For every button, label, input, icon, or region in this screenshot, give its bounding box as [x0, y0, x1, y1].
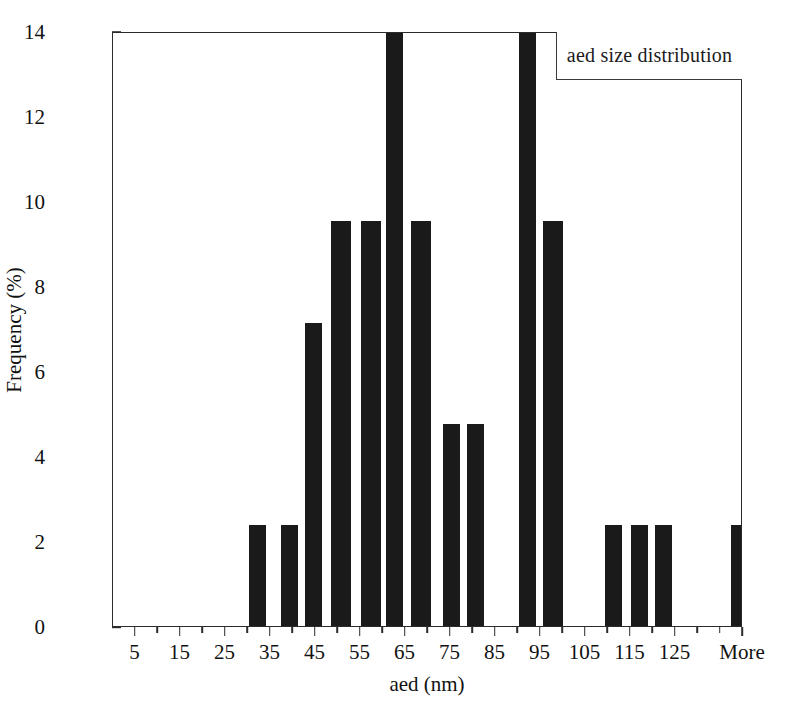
- x-tick-label: 115: [614, 640, 645, 665]
- x-tick-mark: [224, 627, 226, 636]
- x-tick-mark-minor: [719, 627, 721, 633]
- x-tick-mark: [314, 627, 316, 636]
- x-tick-mark: [269, 627, 271, 636]
- histogram-bar: [361, 221, 381, 626]
- x-tick-mark-minor: [246, 627, 248, 633]
- x-tick-mark-minor: [696, 627, 698, 633]
- x-tick-mark-minor: [381, 627, 383, 633]
- histogram-bar: [331, 221, 351, 626]
- x-tick-mark: [404, 627, 406, 636]
- x-tick-mark-minor: [426, 627, 428, 633]
- legend: aed size distribution: [556, 32, 742, 80]
- histogram-bar: [519, 33, 536, 626]
- legend-entry-label: aed size distribution: [567, 44, 732, 67]
- x-tick-label: 15: [169, 640, 190, 665]
- x-tick-mark: [674, 627, 676, 636]
- x-axis-label: aed (nm): [389, 672, 464, 697]
- histogram-bar: [386, 33, 403, 626]
- x-tick-label: 85: [484, 640, 505, 665]
- histogram-bar: [655, 525, 672, 626]
- y-tick-label: 14: [24, 22, 45, 43]
- x-tick-mark-minor: [561, 627, 563, 633]
- y-tick-label: 8: [35, 277, 46, 298]
- y-tick-label: 0: [35, 617, 46, 638]
- x-tick-mark-minor: [336, 627, 338, 633]
- x-tick-mark-minor: [606, 627, 608, 633]
- x-tick-label: 125: [659, 640, 691, 665]
- histogram-bar: [281, 525, 298, 626]
- x-tick-label: 25: [214, 640, 235, 665]
- x-tick-label: 65: [394, 640, 415, 665]
- x-tick-mark: [449, 627, 451, 636]
- x-tick-label: 5: [129, 640, 140, 665]
- x-tick-mark-minor: [201, 627, 203, 633]
- y-axis-label: Frequency (%): [2, 267, 27, 392]
- y-tick-label: 2: [35, 532, 46, 553]
- x-tick-mark: [584, 627, 586, 636]
- x-tick-mark: [539, 627, 541, 636]
- x-tick-label: 105: [569, 640, 601, 665]
- histogram-figure: Frequency (%) 02468101214 aed size distr…: [0, 0, 797, 706]
- x-tick-mark-minor: [471, 627, 473, 633]
- histogram-bar: [731, 525, 741, 626]
- plot-frame: [112, 32, 742, 627]
- x-tick-mark: [741, 627, 743, 636]
- x-tick-mark-minor: [156, 627, 158, 633]
- x-tick-label: More: [719, 640, 765, 665]
- plot-area: [113, 33, 741, 626]
- histogram-bar: [467, 424, 484, 626]
- y-tick-label: 12: [24, 107, 45, 128]
- x-tick-label: 55: [349, 640, 370, 665]
- histogram-bar: [411, 221, 431, 626]
- x-tick-label: 95: [529, 640, 550, 665]
- x-tick-mark-minor: [291, 627, 293, 633]
- histogram-bar: [543, 221, 563, 626]
- histogram-bar: [631, 525, 648, 626]
- histogram-bar: [249, 525, 266, 626]
- x-tick-mark: [179, 627, 181, 636]
- x-tick-mark-minor: [516, 627, 518, 633]
- x-tick-label: 75: [439, 640, 460, 665]
- x-tick-mark: [134, 627, 136, 636]
- histogram-bar: [605, 525, 622, 626]
- y-tick-label: 6: [35, 362, 46, 383]
- x-tick-label: 35: [259, 640, 280, 665]
- x-tick-mark: [359, 627, 361, 636]
- x-tick-mark: [629, 627, 631, 636]
- y-tick-label: 10: [24, 192, 45, 213]
- histogram-bar: [305, 323, 322, 626]
- x-tick-mark: [494, 627, 496, 636]
- histogram-bar: [443, 424, 460, 626]
- x-tick-mark-minor: [651, 627, 653, 633]
- y-tick-label: 4: [35, 447, 46, 468]
- x-tick-label: 45: [304, 640, 325, 665]
